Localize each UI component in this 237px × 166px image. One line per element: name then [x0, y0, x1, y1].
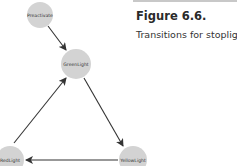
svg-text:GreenLight: GreenLight [63, 62, 89, 67]
svg-text:YellowLight: YellowLight [119, 158, 146, 163]
edge-redlight-to-greenlight [14, 78, 66, 143]
svg-text:Preactivate: Preactivate [27, 13, 53, 18]
svg-text:RedLight: RedLight [0, 158, 20, 163]
node-greenlight: GreenLight [61, 49, 91, 79]
node-yellowlight: YellowLight [119, 146, 147, 166]
state-diagram: Preactivate GreenLight YellowLight RedLi… [0, 0, 237, 166]
edge-preactivate-to-greenlight [48, 26, 66, 50]
node-redlight: RedLight [0, 146, 24, 166]
edge-greenlight-to-yellowlight [84, 78, 123, 146]
node-preactivate: Preactivate [27, 2, 53, 28]
